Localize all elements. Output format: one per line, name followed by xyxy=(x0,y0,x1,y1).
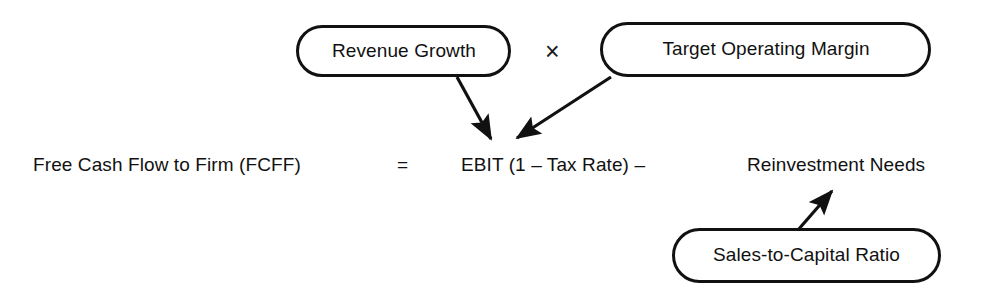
equation-equals-sign: = xyxy=(397,154,408,176)
fcff-diagram: Revenue Growth Target Operating Margin S… xyxy=(0,0,990,298)
connector-sales-capital-to-reinvestment xyxy=(798,191,832,230)
node-label-revenue-growth: Revenue Growth xyxy=(297,40,511,62)
equation-left-side: Free Cash Flow to Firm (FCFF) xyxy=(33,154,301,176)
equation-term-reinvestment-needs: Reinvestment Needs xyxy=(747,154,925,176)
multiply-operator-icon: × xyxy=(545,39,560,64)
connector-revenue-growth-to-ebit xyxy=(457,77,491,139)
node-label-sales-to-capital-ratio: Sales-to-Capital Ratio xyxy=(672,244,941,266)
node-label-target-operating-margin: Target Operating Margin xyxy=(601,38,931,60)
connector-target-margin-to-ebit xyxy=(517,77,611,138)
equation-term-ebit-after-tax: EBIT (1 – Tax Rate) – xyxy=(461,154,645,176)
